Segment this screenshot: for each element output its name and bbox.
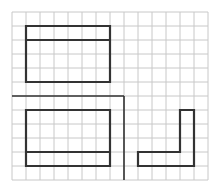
grid-diagram [0,0,215,190]
